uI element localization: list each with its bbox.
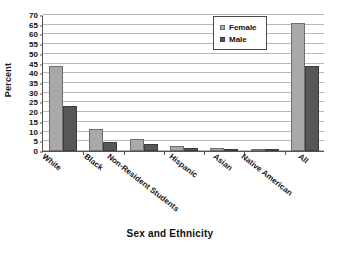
bar-male-hispanic [184, 148, 198, 151]
x-axis-category-label: Hispanic [167, 152, 199, 180]
bar-female-white [49, 66, 63, 151]
y-axis-tick-label: 50 [29, 51, 38, 59]
bar-female-non-resident-students [130, 139, 144, 151]
bar-female-all [291, 23, 305, 151]
y-axis-ticks: 0510152025303540455055606570 [14, 16, 42, 152]
bar-female-black [89, 129, 103, 151]
y-axis-tick-label: 20 [29, 109, 38, 117]
bar-male-white [63, 106, 77, 151]
bar-group [43, 16, 83, 151]
bar-female-native-american [251, 149, 265, 151]
legend-label-male: Male [229, 35, 247, 44]
bar-group [285, 16, 325, 151]
plot-area [42, 16, 324, 152]
bar-chart: Percent 0510152025303540455055606570 Whi… [0, 0, 340, 258]
x-axis-category-labels: WhiteBlackNon-Resident StudentsHispanicA… [42, 152, 324, 224]
bars-layer [43, 16, 324, 151]
bar-male-asian [224, 149, 238, 151]
bar-male-black [103, 142, 117, 151]
y-axis-tick-label: 35 [29, 80, 38, 88]
y-axis-tick-label: 25 [29, 99, 38, 107]
y-axis-tick-label: 30 [29, 90, 38, 98]
y-axis-tick-label: 0 [34, 148, 38, 156]
x-axis-title: Sex and Ethnicity [0, 228, 340, 239]
x-axis-category-label: White [40, 152, 63, 173]
legend-item-female: Female [220, 21, 257, 33]
chart-legend: Female Male [213, 16, 267, 50]
legend-swatch-female-icon [220, 25, 225, 30]
bar-group [124, 16, 164, 151]
x-axis-category-label: Non-Resident Students [105, 152, 180, 214]
bar-female-hispanic [170, 146, 184, 151]
x-axis-category-label: Black [83, 152, 105, 172]
y-axis-tick-label: 45 [29, 61, 38, 69]
bar-female-asian [210, 148, 224, 151]
legend-item-male: Male [220, 33, 257, 45]
y-axis-tick-label: 55 [29, 41, 38, 49]
y-axis-tick-label: 40 [29, 70, 38, 78]
y-axis-title-text: Percent [3, 63, 13, 97]
y-axis-tick-label: 10 [29, 129, 38, 137]
bar-male-native-american [265, 149, 279, 151]
legend-label-female: Female [229, 23, 257, 32]
bar-male-non-resident-students [144, 144, 158, 151]
bar-male-all [305, 66, 319, 151]
y-axis-tick-label: 60 [29, 31, 38, 39]
legend-swatch-male-icon [220, 37, 225, 42]
y-axis-tick-label: 5 [34, 138, 38, 146]
gridline [43, 14, 324, 15]
x-axis-category-label: All [296, 152, 310, 165]
x-axis-category-label: Native American [240, 152, 295, 198]
bar-group [164, 16, 204, 151]
y-axis-tick-label: 15 [29, 119, 38, 127]
y-axis-tick-label: 70 [29, 12, 38, 20]
bar-group [83, 16, 123, 151]
y-axis-tick-label: 65 [29, 22, 38, 30]
x-axis-category-label: Asian [212, 152, 235, 173]
